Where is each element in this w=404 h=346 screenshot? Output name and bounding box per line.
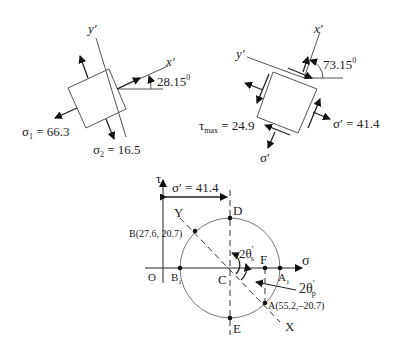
- label-E: E: [233, 321, 241, 336]
- dimension-label: σ′ = 41.4: [172, 180, 219, 195]
- label-Y: Y: [174, 205, 184, 220]
- label-2theta-p: 2θ′p: [299, 278, 316, 298]
- principal-stress-element: y′ x′ 28.150 σ1 = 66.3 σ2 = 16.5: [22, 21, 190, 159]
- x-prime-label: x′: [165, 54, 175, 69]
- y-prime-label: y′: [86, 21, 97, 36]
- sigma-prime-bottom-label: σ′: [260, 150, 270, 165]
- tau-axis-label: τ: [156, 171, 161, 186]
- label-A1: A1: [278, 271, 290, 286]
- angle-arc-icon: [310, 60, 323, 78]
- sigma1-arrow-right: [117, 78, 140, 89]
- sigma2-arrow-up: [80, 56, 88, 78]
- label-X: X: [285, 319, 295, 334]
- angle-label: 73.150: [323, 56, 356, 72]
- point-A1: [278, 266, 283, 271]
- mohr-circle: τ σ σ′ = 41.4 D E C O B1 A1 F B(27.6, 20…: [129, 171, 324, 336]
- sigma1-label: σ1 = 66.3: [22, 124, 70, 141]
- sigma1-arrow-left: [55, 108, 77, 118]
- sigma2-label: σ2 = 16.5: [93, 142, 141, 159]
- sigma2-arrow-down: [106, 119, 114, 139]
- normal-arrow-left: [245, 83, 263, 90]
- x-prime-axis: [304, 32, 320, 78]
- angle-arc-icon: [149, 76, 151, 89]
- tau-max-label: τmax = 24.9: [199, 118, 255, 135]
- max-shear-element: x′ y′ 73.150 τmax = 24.9 σ′ = 41.4 σ′: [199, 21, 380, 165]
- mohr-circle-diagram: y′ x′ 28.150 σ1 = 66.3 σ2 = 16.5 x′ y′ 7…: [0, 0, 404, 346]
- label-D: D: [233, 203, 242, 218]
- point-E: [228, 316, 233, 321]
- normal-arrow-right: [313, 112, 330, 119]
- point-D: [228, 216, 233, 221]
- angle-2theta-p-arc-icon: [241, 264, 246, 280]
- point-B1: [178, 266, 183, 271]
- angle-label: 28.150: [157, 73, 190, 89]
- point-A: [263, 301, 268, 306]
- normal-arrow-bottom: [268, 132, 275, 148]
- label-point-B-coords: B(27.6, 20.7): [129, 228, 182, 240]
- y-prime-axis: [247, 57, 304, 78]
- shear-arrow-bottom: [265, 125, 290, 135]
- label-C: C: [218, 272, 227, 287]
- sigma-axis-label: σ: [302, 253, 310, 268]
- x-prime-label: x′: [313, 21, 323, 36]
- point-B: [193, 229, 198, 234]
- sigma-prime-right-label: σ′ = 41.4: [333, 116, 380, 131]
- label-point-A-coords: A(55.2,–20.7): [268, 300, 324, 312]
- label-O: O: [148, 271, 156, 283]
- stress-element-square: [68, 69, 126, 128]
- label-F: F: [260, 252, 267, 267]
- y-prime-label: y′: [234, 46, 245, 61]
- label-2theta-s: 2θ′s: [239, 244, 254, 263]
